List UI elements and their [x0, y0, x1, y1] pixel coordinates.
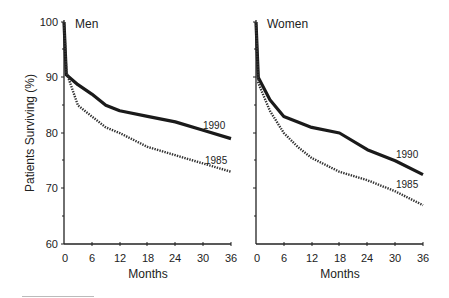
- svg-text:0: 0: [254, 252, 260, 264]
- women-panel: Women 0 6 12 18 24 30 36 Months 1990 198…: [253, 17, 429, 281]
- svg-text:6: 6: [89, 252, 95, 264]
- men-ticks: [61, 22, 231, 246]
- svg-text:0: 0: [62, 252, 68, 264]
- svg-text:12: 12: [114, 252, 126, 264]
- svg-text:30: 30: [389, 252, 401, 264]
- women-panel-title: Women: [267, 17, 308, 31]
- women-x-axis-title: Months: [320, 267, 359, 281]
- svg-text:36: 36: [417, 252, 429, 264]
- svg-text:12: 12: [306, 252, 318, 264]
- svg-text:24: 24: [361, 252, 373, 264]
- survival-chart: Patients Surviving (%) 100 90 80 70 60 M…: [0, 0, 449, 298]
- men-panel: Men 0 6 12 18 24 30 36 Months 1990 1985: [61, 17, 237, 281]
- men-panel-title: Men: [75, 17, 98, 31]
- y-tick-100: 100: [40, 16, 58, 28]
- women-1990-label: 1990: [396, 149, 419, 160]
- svg-text:6: 6: [281, 252, 287, 264]
- y-tick-60: 60: [46, 238, 58, 250]
- men-1985-line: [64, 22, 231, 172]
- svg-text:18: 18: [334, 252, 346, 264]
- svg-text:18: 18: [142, 252, 154, 264]
- y-tick-80: 80: [46, 127, 58, 139]
- y-tick-70: 70: [46, 182, 58, 194]
- svg-text:30: 30: [197, 252, 209, 264]
- women-x-tick-labels: 0 6 12 18 24 30 36: [254, 252, 429, 264]
- footer-rule: [22, 296, 94, 297]
- women-1985-label: 1985: [396, 179, 419, 190]
- y-tick-90: 90: [46, 71, 58, 83]
- svg-text:24: 24: [169, 252, 181, 264]
- men-1990-label: 1990: [203, 120, 226, 131]
- men-x-tick-labels: 0 6 12 18 24 30 36: [62, 252, 237, 264]
- svg-text:36: 36: [225, 252, 237, 264]
- y-tick-labels: 100 90 80 70 60: [40, 16, 58, 250]
- men-1985-label: 1985: [205, 155, 228, 166]
- y-axis-title: Patients Surviving (%): [23, 74, 37, 192]
- men-x-axis-title: Months: [128, 267, 167, 281]
